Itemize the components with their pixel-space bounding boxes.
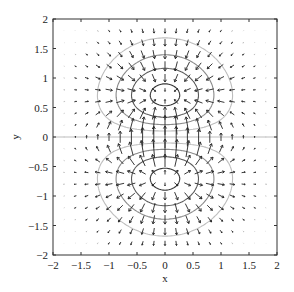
- vector-arrow: [197, 51, 201, 57]
- vector-arrow: [195, 100, 203, 104]
- vector-arrow: [117, 110, 123, 117]
- vector-arrow: [75, 113, 77, 114]
- vector-arrow: [254, 207, 256, 208]
- vector-arrow: [97, 42, 99, 44]
- vector-arrow: [242, 89, 246, 90]
- vector-arrow: [242, 101, 246, 102]
- vector-arrow: [220, 242, 221, 244]
- vector-arrow: [86, 42, 87, 43]
- vector-arrow: [243, 243, 244, 244]
- vector-arrow: [231, 53, 233, 55]
- y-tick-label: −1: [36, 190, 48, 202]
- vector-arrow: [198, 229, 201, 234]
- vector-arrow: [218, 77, 224, 80]
- vector-arrow: [242, 184, 246, 185]
- vector-arrow: [174, 50, 177, 59]
- vector-arrow: [141, 117, 145, 134]
- vector-arrow: [141, 62, 146, 70]
- vector-arrow: [119, 41, 121, 45]
- vector-arrow: [120, 242, 121, 244]
- vector-arrow: [142, 241, 144, 245]
- vector-arrow: [195, 183, 203, 186]
- vector-arrow: [266, 148, 267, 149]
- vector-arrow: [153, 116, 156, 135]
- vector-arrow: [64, 125, 65, 126]
- vector-arrow: [243, 219, 245, 220]
- vector-arrow: [86, 243, 87, 244]
- vector-arrow: [141, 216, 145, 224]
- vector-arrow: [254, 196, 256, 197]
- vector-arrow: [187, 241, 189, 245]
- vector-arrow: [64, 101, 65, 102]
- vector-arrow: [254, 101, 256, 102]
- vector-arrow: [242, 66, 244, 67]
- vector-arrow: [86, 136, 87, 139]
- vector-arrow: [128, 75, 135, 81]
- vector-arrow: [164, 28, 166, 33]
- y-axis-label: y: [9, 134, 21, 140]
- y-tick-label: 0: [43, 131, 49, 143]
- vector-arrow: [195, 193, 202, 199]
- vector-arrow: [207, 205, 212, 210]
- vector-arrow: [209, 30, 210, 32]
- vector-arrow: [242, 195, 245, 196]
- vector-arrow: [254, 89, 256, 90]
- vector-arrow: [185, 193, 191, 200]
- vector-arrow: [116, 183, 124, 186]
- vector-arrow: [85, 172, 89, 173]
- vector-arrow: [116, 89, 124, 92]
- vector-arrow: [230, 159, 234, 162]
- vector-arrow: [230, 77, 235, 79]
- vector-arrow: [209, 41, 211, 45]
- vector-arrow: [195, 170, 203, 174]
- vector-arrow: [219, 122, 223, 129]
- vector-arrow: [219, 53, 222, 56]
- vector-arrow: [243, 231, 244, 232]
- vector-arrow: [75, 54, 76, 55]
- vector-arrow: [64, 148, 65, 149]
- vector-arrow: [75, 148, 76, 150]
- vector-arrow: [175, 215, 178, 224]
- vector-arrow: [197, 216, 201, 222]
- vector-arrow: [86, 54, 88, 55]
- vector-arrow: [118, 205, 123, 210]
- vector-arrow: [207, 110, 213, 117]
- vector-arrow: [130, 40, 133, 45]
- vector-arrow: [206, 100, 214, 103]
- vector-arrow: [186, 29, 188, 33]
- vector-arrow: [242, 160, 245, 162]
- vector-arrow: [75, 219, 76, 220]
- vector-arrow: [243, 42, 244, 43]
- vector-arrow: [254, 219, 255, 220]
- vector-arrow: [242, 207, 244, 208]
- vector-arrow: [107, 145, 111, 152]
- x-tick-label: −0.5: [127, 259, 147, 271]
- vector-arrow: [74, 78, 76, 79]
- vector-arrow: [86, 231, 87, 232]
- y-tick-labels: −2−1.5−1−0.500.511.52: [28, 13, 48, 261]
- vector-arrow: [128, 109, 134, 118]
- x-tick-label: −2: [47, 259, 59, 271]
- y-tick-label: 0.5: [34, 102, 48, 114]
- vector-arrow: [174, 74, 178, 82]
- vector-arrow: [108, 230, 110, 233]
- vector-arrow: [218, 158, 224, 163]
- vector-arrow: [75, 136, 76, 138]
- vector-arrow: [86, 31, 87, 32]
- x-tick-label: 1.5: [242, 259, 256, 271]
- vector-arrow: [140, 193, 146, 200]
- vector-arrow: [116, 171, 124, 174]
- vector-arrow: [85, 77, 88, 78]
- vector-arrow: [164, 39, 167, 46]
- x-tick-label: 0: [162, 259, 168, 271]
- vector-arrow: [231, 147, 234, 152]
- vector-arrow: [130, 51, 134, 57]
- vector-arrow: [164, 241, 166, 246]
- vector-arrow: [174, 62, 177, 71]
- quiver-contour-plot: −2−1.5−1−0.500.511.52 −2−1.5−1−0.500.511…: [0, 0, 294, 292]
- vector-arrow: [97, 53, 99, 55]
- vector-arrow: [175, 39, 178, 46]
- vector-arrow: [75, 66, 77, 67]
- vector-arrow: [198, 242, 200, 245]
- vector-arrow: [206, 171, 214, 174]
